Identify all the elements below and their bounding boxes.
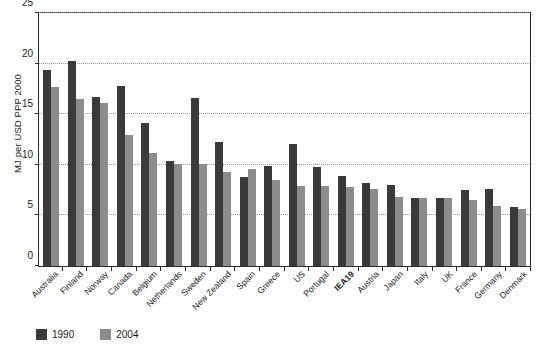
bar xyxy=(362,183,370,266)
bar xyxy=(510,207,518,266)
y-axis-tick-label: 10 xyxy=(22,148,33,159)
bar xyxy=(272,180,280,266)
y-axis-tick-label: 15 xyxy=(22,98,33,109)
bar xyxy=(313,167,321,266)
x-axis-label: Japan xyxy=(382,269,406,293)
bar-group xyxy=(260,13,285,266)
bar-group xyxy=(235,13,260,266)
bar xyxy=(92,97,100,266)
bar xyxy=(444,198,452,266)
bar-group xyxy=(383,13,408,266)
bar-group xyxy=(88,13,113,266)
x-axis-label: UK xyxy=(439,269,455,285)
bar xyxy=(215,142,223,266)
legend-label: 2004 xyxy=(116,329,138,340)
bar xyxy=(321,186,329,266)
bar xyxy=(297,186,305,266)
bar-group xyxy=(334,13,359,266)
bar xyxy=(395,197,403,266)
bar-group xyxy=(309,13,334,266)
bar xyxy=(141,123,149,266)
bar xyxy=(387,185,395,266)
bar xyxy=(419,198,427,266)
bar xyxy=(223,172,231,266)
bar xyxy=(518,209,526,266)
x-axis-label: Australia xyxy=(30,269,61,300)
chart-legend: 19902004 xyxy=(36,329,139,340)
x-axis-labels: AustraliaFinlandNorwayCanadaBelgiumNethe… xyxy=(38,269,531,325)
legend-item: 1990 xyxy=(36,329,74,340)
bar xyxy=(100,103,108,266)
y-axis-tick-label: 0 xyxy=(27,250,33,261)
x-axis-label: IEA19 xyxy=(332,269,356,293)
bar-group xyxy=(113,13,138,266)
bar-group xyxy=(284,13,309,266)
bar xyxy=(346,187,354,266)
bar-group xyxy=(456,13,481,266)
bar xyxy=(370,189,378,266)
bar xyxy=(199,164,207,266)
bar xyxy=(117,86,125,266)
bar-group xyxy=(137,13,162,266)
y-axis-title: MJ per USD PPP 2000 xyxy=(12,44,23,204)
bar xyxy=(166,161,174,266)
bar-group xyxy=(358,13,383,266)
bar xyxy=(174,164,182,266)
bar xyxy=(191,98,199,266)
bar-group xyxy=(505,13,530,266)
legend-label: 1990 xyxy=(52,329,74,340)
bar-group xyxy=(39,13,64,266)
bar-group xyxy=(432,13,457,266)
bar-series-layer xyxy=(39,13,530,266)
y-axis-tick-label: 25 xyxy=(22,0,33,8)
bar xyxy=(338,176,346,266)
bar-group xyxy=(211,13,236,266)
bar xyxy=(68,61,76,266)
energy-intensity-bar-chart: MJ per USD PPP 2000 0510152025 Australia… xyxy=(0,0,556,346)
bar xyxy=(264,166,272,266)
y-axis-tick-label: 20 xyxy=(22,47,33,58)
bar xyxy=(51,87,59,266)
legend-swatch xyxy=(100,329,111,340)
bar xyxy=(436,198,444,266)
x-axis-label: Italy xyxy=(412,269,430,287)
bar-group xyxy=(186,13,211,266)
bar-group xyxy=(64,13,89,266)
bar xyxy=(76,99,84,266)
bar xyxy=(469,200,477,266)
x-axis-label: Canada xyxy=(106,269,134,297)
x-axis-label: Portugal xyxy=(302,269,332,299)
bar-group xyxy=(162,13,187,266)
bar xyxy=(485,189,493,266)
x-axis-label: Greece xyxy=(255,269,282,296)
x-axis-label: Austria xyxy=(355,269,381,295)
bar xyxy=(411,198,419,266)
bar-group xyxy=(407,13,432,266)
plot-area: 0510152025 xyxy=(38,12,531,267)
x-axis-label: US xyxy=(291,269,307,285)
bar xyxy=(248,169,256,266)
bar xyxy=(240,177,248,266)
bar xyxy=(149,153,157,266)
x-axis-label: Norway xyxy=(82,269,110,297)
bar xyxy=(493,206,501,266)
bar xyxy=(461,190,469,266)
bar xyxy=(125,135,133,266)
x-axis-label: Finland xyxy=(58,269,85,296)
y-axis-tick-label: 5 xyxy=(27,199,33,210)
legend-swatch xyxy=(36,329,47,340)
legend-item: 2004 xyxy=(100,329,138,340)
bar xyxy=(43,70,51,266)
bar xyxy=(289,144,297,266)
bar-group xyxy=(481,13,506,266)
